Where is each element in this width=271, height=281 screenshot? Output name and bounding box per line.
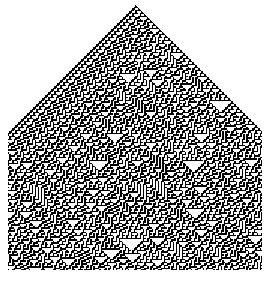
figure-stage <box>0 0 271 281</box>
cellular-automaton-canvas <box>0 0 271 281</box>
